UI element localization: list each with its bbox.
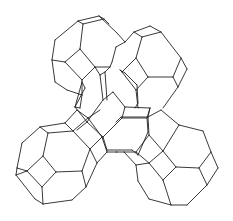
edge-line — [125, 107, 150, 108]
edge-line — [116, 42, 125, 47]
edge-line — [173, 77, 178, 87]
edge-line — [65, 49, 80, 62]
edge-line — [80, 24, 83, 49]
edge-line — [55, 82, 67, 90]
edge-line — [52, 40, 55, 60]
edge-line — [122, 107, 125, 118]
edge-line — [82, 171, 86, 187]
edge-line — [136, 37, 142, 58]
edge-line — [43, 156, 56, 172]
edge-line — [161, 32, 181, 58]
edge-line — [178, 69, 187, 87]
edge-line — [105, 67, 110, 72]
edge-line — [163, 167, 176, 180]
edge-line — [52, 60, 55, 82]
edge-line — [163, 151, 176, 167]
edge-line — [27, 171, 42, 187]
edge-line — [48, 131, 73, 133]
edge-line — [149, 163, 163, 180]
edge-line — [78, 16, 99, 21]
edge-line — [136, 77, 148, 90]
edge-line — [82, 67, 95, 80]
edge-line — [149, 151, 163, 163]
edge-line — [150, 26, 161, 32]
edge-line — [22, 127, 40, 143]
edge-line — [52, 60, 65, 62]
edge-line — [35, 199, 43, 204]
edge-line — [105, 72, 107, 100]
edge-line — [136, 152, 149, 163]
edge-line — [40, 123, 65, 127]
edge-line — [211, 152, 218, 168]
edge-line — [124, 152, 136, 165]
edge-line — [199, 152, 211, 168]
edge-line — [138, 181, 149, 199]
edge-line — [103, 137, 107, 150]
edge-line — [16, 168, 17, 175]
edge-line — [40, 127, 48, 133]
edge-line — [65, 62, 82, 80]
edge-line — [117, 33, 125, 42]
edge-line — [173, 58, 181, 77]
edge-line — [102, 137, 107, 152]
polyhedra-diagram — [0, 0, 233, 221]
edge-line — [56, 171, 82, 172]
edge-line — [90, 137, 102, 149]
edge-line — [199, 168, 207, 185]
edge-line — [87, 122, 103, 137]
cage-edges — [16, 16, 218, 205]
edge-line — [122, 72, 136, 90]
edge-line — [100, 72, 105, 75]
edge-line — [103, 92, 113, 100]
edge-line — [83, 19, 104, 24]
edge-line — [161, 110, 179, 125]
edge-line — [103, 118, 122, 137]
edge-line — [16, 171, 27, 175]
edge-line — [95, 67, 100, 75]
edge-line — [134, 26, 150, 32]
edge-line — [122, 58, 136, 72]
edge-line — [75, 107, 87, 122]
edge-line — [78, 21, 83, 24]
edge-line — [17, 143, 22, 168]
edge-line — [99, 16, 117, 33]
edge-line — [16, 175, 35, 199]
edge-line — [187, 185, 207, 205]
edge-line — [176, 167, 199, 168]
edge-line — [112, 47, 116, 62]
edge-line — [42, 172, 56, 187]
edge-line — [100, 75, 103, 100]
edge-line — [88, 110, 100, 118]
edge-line — [148, 110, 161, 117]
edge-line — [136, 58, 148, 77]
edge-line — [65, 110, 77, 123]
edge-line — [42, 187, 43, 204]
edge-line — [203, 131, 211, 152]
edge-line — [90, 149, 97, 163]
edge-line — [163, 125, 179, 151]
edge-line — [179, 125, 203, 131]
edge-line — [86, 163, 97, 187]
edge-line — [149, 199, 171, 205]
edge-line — [136, 163, 149, 165]
edge-line — [142, 32, 161, 37]
edge-line — [136, 135, 149, 152]
edge-line — [97, 152, 107, 163]
edge-line — [75, 88, 85, 107]
edge-line — [113, 92, 125, 107]
edge-line — [43, 200, 72, 204]
edge-line — [163, 87, 178, 108]
edge-line — [87, 100, 103, 122]
edge-line — [43, 133, 48, 156]
edge-line — [136, 165, 138, 181]
edge-line — [17, 168, 27, 171]
edge-line — [27, 156, 43, 171]
edge-line — [55, 21, 78, 40]
edge-line — [125, 32, 134, 42]
edge-line — [72, 187, 86, 200]
edge-line — [82, 149, 90, 171]
edge-line — [181, 58, 187, 69]
edge-line — [149, 135, 163, 151]
edge-line — [207, 168, 218, 185]
edge-line — [163, 180, 171, 205]
